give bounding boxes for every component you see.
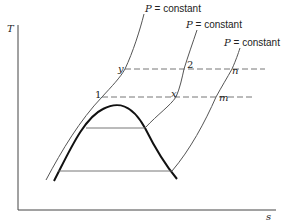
point-label-m: m	[219, 92, 228, 103]
isobar-label-2: P = constant	[185, 19, 242, 30]
isobar-curve-2	[145, 30, 197, 128]
point-label-2: 2	[187, 59, 193, 70]
y-axis-label: T	[7, 23, 15, 34]
isobar-curve-3	[172, 48, 240, 171]
saturation-dome	[54, 105, 177, 181]
isobar-label-3: P = constant	[223, 37, 280, 48]
x-axis-label: s	[266, 211, 271, 222]
point-label-y: y	[117, 63, 124, 74]
isobar-label-1: P = constant	[144, 3, 201, 14]
point-label-x: x	[171, 88, 177, 99]
point-label-1: 1	[95, 89, 101, 100]
ts-diagram: T s P = constant P = constant P = consta…	[0, 0, 287, 222]
point-label-n: n	[232, 65, 238, 76]
